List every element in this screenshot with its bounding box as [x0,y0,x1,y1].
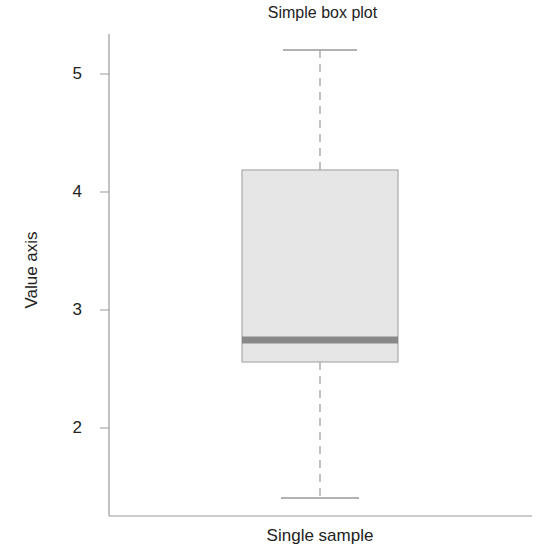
box [242,170,398,362]
plot-area [0,0,557,550]
